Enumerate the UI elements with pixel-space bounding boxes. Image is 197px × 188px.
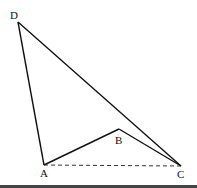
- segment-DA: [18, 22, 44, 165]
- label-C: C: [177, 168, 184, 180]
- geometry-diagram: D A B C: [0, 0, 197, 188]
- segment-BC: [119, 129, 181, 166]
- label-A: A: [40, 167, 48, 179]
- segment-AB: [44, 129, 119, 165]
- label-B: B: [115, 134, 122, 146]
- segment-DC: [18, 22, 181, 166]
- label-D: D: [10, 9, 18, 21]
- bottom-border: [0, 185, 197, 188]
- segment-AC-dashed: [44, 165, 181, 166]
